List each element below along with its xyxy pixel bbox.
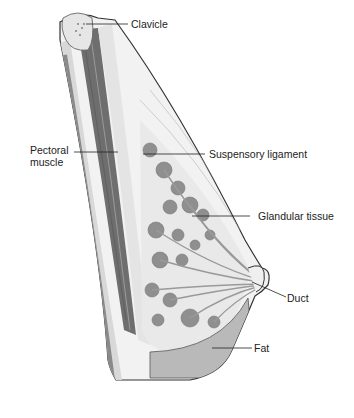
breast-anatomy-diagram: Clavicle Pectoral muscle Suspensory liga…	[0, 0, 354, 418]
label-glandular-tissue: Glandular tissue	[258, 210, 334, 222]
label-fat: Fat	[254, 342, 269, 354]
anatomy-illustration	[0, 0, 354, 418]
label-pectoral-muscle: Pectoral muscle	[30, 144, 69, 168]
label-suspensory-ligament: Suspensory ligament	[209, 148, 307, 160]
label-clavicle: Clavicle	[131, 18, 168, 30]
label-pectoral-line2: muscle	[30, 156, 69, 168]
label-duct: Duct	[287, 292, 309, 304]
label-pectoral-line1: Pectoral	[30, 144, 69, 156]
